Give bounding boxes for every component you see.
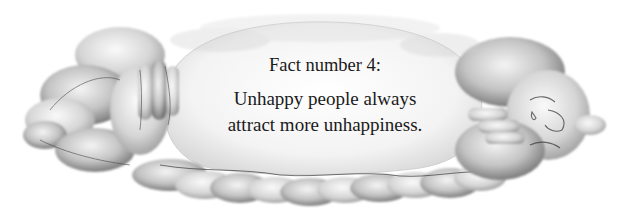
caption: Fact number 4: Unhappy people always att… xyxy=(170,54,480,138)
caption-line-1: Unhappy people always xyxy=(170,86,480,112)
caption-line-2: attract more unhappiness. xyxy=(170,112,480,138)
left-cloud-figure xyxy=(23,27,179,172)
caption-title: Fact number 4: xyxy=(170,54,480,76)
